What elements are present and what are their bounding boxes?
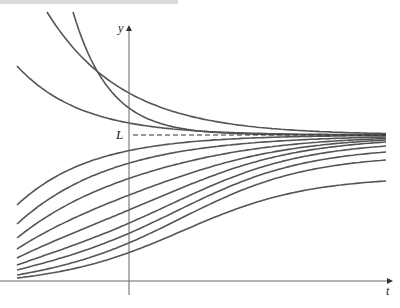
equilibrium-label: L bbox=[115, 127, 123, 142]
solution-curve bbox=[17, 146, 386, 265]
solution-curve bbox=[17, 160, 386, 275]
y-axis-label: y bbox=[117, 21, 124, 35]
x-axis-label: t bbox=[386, 284, 390, 298]
solution-curve bbox=[17, 142, 386, 258]
solution-curve bbox=[17, 66, 386, 135]
solution-curves-diagram: y t L bbox=[0, 0, 400, 308]
solution-curves bbox=[17, 12, 386, 278]
